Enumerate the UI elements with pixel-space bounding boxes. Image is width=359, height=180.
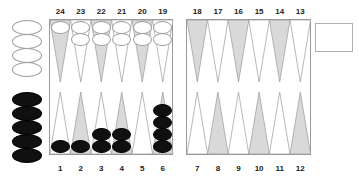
checker-white-point-21[interactable] — [112, 33, 131, 46]
checker-black-point-4[interactable] — [112, 128, 131, 141]
checker-black-point-6[interactable] — [153, 116, 172, 129]
checkers-layer — [0, 0, 359, 180]
checker-black-point-3[interactable] — [92, 128, 111, 141]
backgammon-board: 242322212019181716151413 123456789101112 — [0, 0, 359, 180]
checker-white-point-19[interactable] — [153, 33, 172, 46]
checker-white-point-22[interactable] — [92, 33, 111, 46]
checker-black-point-6[interactable] — [153, 140, 172, 153]
checker-black-point-1[interactable] — [51, 140, 70, 153]
checker-black-point-3[interactable] — [92, 140, 111, 153]
checker-black-point-6[interactable] — [153, 128, 172, 141]
checker-white-point-23[interactable] — [71, 33, 90, 46]
checker-black-point-6[interactable] — [153, 104, 172, 117]
checker-black-point-2[interactable] — [71, 140, 90, 153]
checker-white-point-24[interactable] — [51, 21, 70, 34]
checker-black-point-4[interactable] — [112, 140, 131, 153]
checker-white-point-20[interactable] — [133, 33, 152, 46]
